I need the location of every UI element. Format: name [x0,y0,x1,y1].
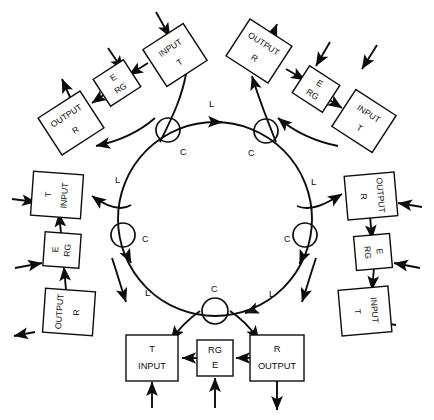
coupler-label-bottom: C [211,284,218,294]
coupler-label-top-left: C [180,147,187,157]
node-top-left[interactable]: INPUT T E RG OUTPUT R [38,12,207,155]
box-rg-e-line1: RG [208,345,222,355]
box-r-output-right [344,172,398,220]
coupler-mid-right-icon [293,223,317,247]
link-label-top: L [209,98,214,109]
tap-left [92,196,131,302]
box-rg-e-line2: E [212,360,218,370]
box-r-output-bottom [250,335,304,381]
link-label-lower-right: L [269,288,274,299]
box-t-input-bottom [126,335,178,381]
coupler-label-mid-right: C [284,234,291,244]
node-top-right[interactable]: OUTPUT R E RG INPUT T [226,19,396,153]
box-t-input-line2: INPUT [138,361,166,371]
box-output-r-left [43,288,96,335]
box-input-t-top-left [143,23,207,86]
box-output-r-line2: R [71,309,81,316]
box-output-r-top-right [226,19,292,83]
coupler-bottom-icon [202,298,228,324]
coupler-label-top-right: C [248,148,255,158]
link-labels: L L L L L [115,98,316,299]
box-e-rg-top-right [292,66,340,112]
box-input-t-line1: INPUT [58,182,70,209]
box-e-rg-top-left [93,60,141,106]
box-input-t-left [31,171,84,218]
tap-right [297,194,342,302]
box-r-output-line1: R [274,344,281,354]
link-label-upper-right: L [311,176,316,187]
node-bottom[interactable]: T INPUT RG E R OUTPUT [126,335,304,410]
box-rg-e-line2: E [374,248,384,255]
node-left[interactable]: INPUT T RG E OUTPUT R [12,171,95,336]
coupler-labels: C C C C C [142,147,291,294]
box-r-output-line1: R [359,193,370,200]
link-label-lower-left: L [145,287,150,298]
diagram-svg: C C C C C L L L L L INPUT [0,0,434,420]
node-right[interactable]: R OUTPUT RG E T INPUT [338,172,422,336]
box-t-input-line1: T [149,344,155,354]
coupler-label-mid-left: C [142,234,149,244]
coupler-mid-left-icon [111,223,135,247]
box-input-t-top-right [332,89,396,152]
box-rg-e-line1: RG [362,246,373,260]
diagram-canvas: C C C C C L L L L L INPUT [0,0,434,420]
box-t-input-right [338,286,392,336]
box-r-output-line2: OUTPUT [258,361,297,371]
box-rg-e-line2: E [50,246,60,253]
box-rg-e-line1: RG [62,243,73,257]
link-label-upper-left: L [115,174,120,185]
